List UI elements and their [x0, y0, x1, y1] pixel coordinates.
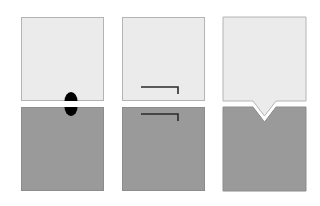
- panel-dowel-lower-block: [22, 108, 104, 191]
- panel-rabbet-upper-block: [123, 18, 205, 101]
- joint-diagram: [0, 0, 320, 206]
- panel-vee-upper-block: [223, 17, 306, 116]
- panel-rabbet-lower-block: [123, 108, 205, 191]
- figure-canvas: Three mating joint configurations: [0, 0, 320, 206]
- panel-dowel-upper-block: [22, 18, 104, 101]
